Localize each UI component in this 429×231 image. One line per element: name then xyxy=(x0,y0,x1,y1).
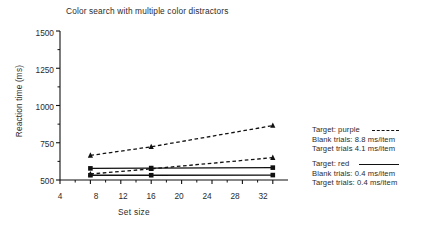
legend-red: Target: red Blank trials: 0.4 ms/item Ta… xyxy=(312,159,397,188)
series-line xyxy=(90,126,272,156)
series-line xyxy=(90,158,272,174)
series-line xyxy=(90,168,272,169)
chart-figure: Color search with multiple color distrac… xyxy=(0,0,429,231)
data-point-marker xyxy=(149,166,154,171)
legend-red-blank: Blank trials: 0.4 ms/item xyxy=(312,169,395,178)
data-point-marker xyxy=(271,173,276,178)
legend-purple-title: Target: purple xyxy=(312,125,360,134)
legend-purple: Target: purple Blank trials: 8.8 ms/item… xyxy=(312,125,395,154)
legend-purple-line-sample xyxy=(372,130,399,131)
legend-red-line-sample xyxy=(359,164,399,165)
plot-area xyxy=(0,0,429,231)
legend-purple-target: Target trials 4.1 ms/item xyxy=(312,144,395,153)
legend-red-title: Target: red xyxy=(312,159,349,168)
data-point-marker xyxy=(88,173,93,178)
legend-red-target: Target trials: 0.4 ms/item xyxy=(312,178,397,187)
data-point-marker xyxy=(270,123,275,128)
data-point-marker xyxy=(149,173,154,178)
data-point-marker xyxy=(271,165,276,170)
data-point-marker xyxy=(88,166,93,171)
legend-purple-blank: Blank trials: 8.8 ms/item xyxy=(312,135,395,144)
